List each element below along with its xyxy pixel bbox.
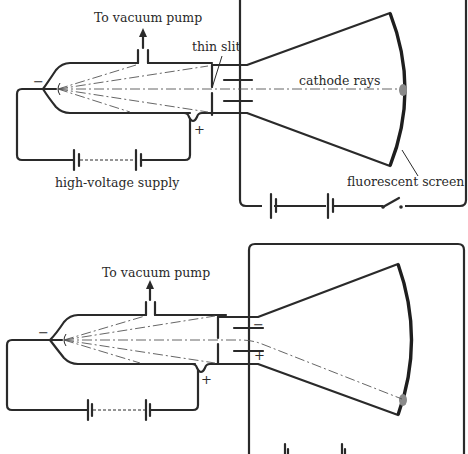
bottom-panel: To vacuum pump − + − +: [7, 244, 464, 454]
top-hv-circuit: [17, 89, 190, 160]
top-label-cathode-rays: cathode rays: [299, 73, 380, 88]
top-hv-battery-icon: [74, 150, 145, 170]
top-anode-sign: +: [194, 122, 205, 137]
top-label-thin-slit: thin slit: [192, 39, 241, 54]
bottom-upper-plate-sign: −: [253, 317, 264, 332]
top-pump-arrow-icon: [139, 28, 147, 48]
bottom-deflection-circuit: [249, 244, 464, 454]
bottom-hv-circuit: [7, 340, 198, 410]
bottom-plate-battery-icon: [285, 444, 345, 454]
bottom-lower-plate-sign: +: [254, 348, 265, 363]
top-label-vacuum-pump: To vacuum pump: [94, 10, 202, 25]
bottom-anode-sign: +: [201, 372, 212, 387]
bottom-cathode-sign: −: [38, 325, 49, 340]
bottom-label-vacuum-pump: To vacuum pump: [102, 265, 210, 280]
bottom-pump-arrow-icon: [146, 280, 154, 300]
top-label-hv-supply: high-voltage supply: [55, 175, 180, 190]
top-beam-spot: [399, 84, 407, 96]
top-panel: To vacuum pump thin slit cathode rays hi…: [17, 0, 466, 218]
bottom-fluorescent-screen: [398, 264, 412, 415]
cathode-ray-diagram: To vacuum pump thin slit cathode rays hi…: [0, 0, 468, 454]
top-cathode-sign: −: [33, 74, 44, 89]
top-switch-icon: [381, 196, 405, 214]
bottom-hv-battery-icon: [88, 400, 152, 420]
bottom-beam-spot: [399, 394, 407, 406]
top-label-screen: fluorescent screen: [347, 174, 464, 189]
